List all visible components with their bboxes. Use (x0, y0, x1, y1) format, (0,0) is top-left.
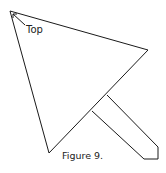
figure-diagram (0, 0, 166, 173)
figure-caption: Figure 9. (62, 150, 103, 161)
arrow-icon (13, 14, 25, 25)
top-annotation: Top (26, 24, 43, 35)
